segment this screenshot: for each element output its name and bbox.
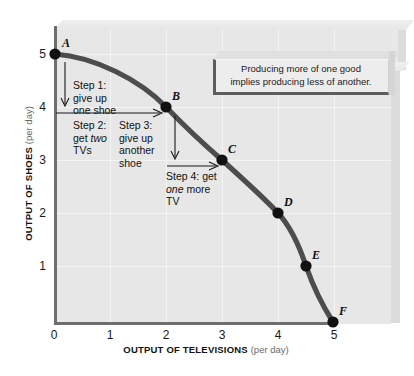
callout-bevel-top [213,51,402,59]
callout-bevel-side [389,51,395,95]
step3-line-2: give up [119,132,155,145]
point-label-D: D [284,195,293,210]
step4-emphasis-one: one [166,183,184,195]
point-label-C: C [228,142,236,157]
data-point-B [160,101,171,112]
point-label-E: E [312,248,320,263]
step2-emphasis-two: two [91,132,107,144]
step1-arrow-down [61,62,69,106]
step1-line-2: give up [73,92,116,105]
step4-arrow-right [167,162,218,170]
data-point-E [300,260,311,271]
annotation-step-2: Step 2: get two TVs [73,119,107,157]
step4-line-2b: more [184,183,211,195]
step4-line-1: Step 4: get [166,170,217,183]
step3-line-3: another [119,144,155,157]
callout-text: Producing more of one good implies produ… [216,62,386,88]
step2-line-2a: get [73,132,91,144]
step2-line-1: Step 2: [73,119,107,132]
step4-line-3: TV [166,195,217,208]
point-label-A: A [62,36,70,51]
annotation-step-1: Step 1: give up one shoe [73,79,116,117]
data-point-D [272,207,283,218]
step1-line-3: one shoe [73,104,116,117]
callout-line-1: Producing more of one good [216,62,386,75]
data-point-A [49,48,60,59]
step3-line-4: shoe [119,157,155,170]
step1-line-1: Step 1: [73,79,116,92]
step4-line-2: one more [166,183,217,196]
step2-line-3: TVs [73,144,107,157]
data-point-C [216,154,227,165]
point-label-F: F [339,304,347,319]
point-label-B: B [172,89,180,104]
step3-line-1: Step 3: [119,119,155,132]
data-point-F [327,316,338,327]
callout-line-2: implies producing less of another. [216,75,386,88]
annotation-step-3: Step 3: give up another shoe [119,119,155,169]
step2-line-2: get two [73,132,107,145]
annotation-step-4: Step 4: get one more TV [166,170,217,208]
